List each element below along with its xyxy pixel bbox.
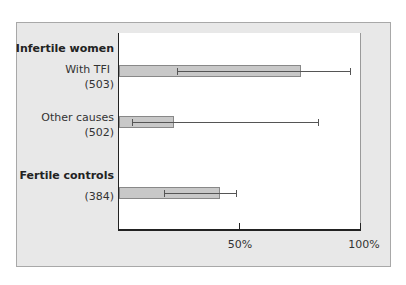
category-n-tfi: (503) [84, 78, 114, 91]
errorbar-cap [164, 190, 165, 197]
tick-label-50: 50% [228, 238, 252, 251]
tick-label-100: 100% [348, 238, 379, 251]
category-n-fertile: (384) [84, 190, 114, 203]
category-n-other: (502) [84, 126, 114, 139]
errorbar-cap [236, 190, 237, 197]
errorbar-other [132, 122, 318, 123]
tick-50 [239, 223, 240, 230]
group-label-fertile: Fertile controls [19, 169, 114, 182]
errorbar-cap [350, 68, 351, 75]
errorbar-tfi [177, 71, 350, 72]
errorbar-cap [132, 119, 133, 126]
group-label-infertile: Infertile women [16, 42, 114, 55]
category-label-tfi: With TFI [65, 63, 110, 76]
errorbar-cap [177, 68, 178, 75]
plot-area [118, 33, 361, 230]
errorbar-fertile [164, 193, 236, 194]
y-axis [118, 33, 119, 230]
errorbar-cap [318, 119, 319, 126]
tick-100 [360, 223, 361, 230]
category-label-other: Other causes [41, 111, 114, 124]
